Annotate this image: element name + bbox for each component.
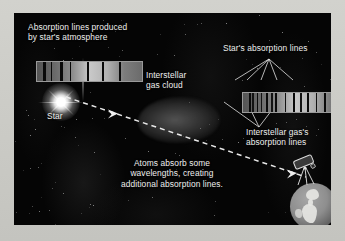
absorption-line-stellar — [87, 62, 89, 81]
stellar-spectrum — [36, 61, 143, 82]
absorption-line-interstellar — [261, 93, 262, 112]
caption-atoms-absorb: Atoms absorb some wavelengths, creating … — [86, 158, 258, 189]
absorption-line-stellar — [43, 62, 45, 81]
absorption-line-stellar — [51, 62, 53, 81]
absorption-line-stellar — [70, 62, 72, 81]
absorption-line-interstellar — [252, 93, 254, 112]
absorption-line-stellar — [257, 93, 258, 112]
caption-stellar-absorption: Absorption lines produced by star's atmo… — [28, 22, 188, 43]
absorption-line-stellar — [266, 93, 268, 112]
ray-arrowhead-1 — [108, 110, 118, 119]
absorption-line-stellar — [307, 93, 308, 112]
label-star-absorption-lines: Star's absorption lines — [223, 43, 331, 53]
spectrum-gradient — [37, 62, 142, 81]
absorption-line-stellar — [324, 93, 326, 112]
absorption-line-stellar — [249, 93, 251, 112]
absorption-line-interstellar — [285, 93, 287, 112]
absorption-line-interstellar — [316, 93, 317, 112]
absorption-line-stellar — [102, 62, 104, 81]
leader-lines-star — [235, 59, 293, 80]
absorption-line-stellar — [119, 62, 121, 81]
absorption-line-stellar — [275, 93, 277, 112]
absorption-line-interstellar — [271, 93, 273, 112]
figure-screenshot: Absorption lines produced by star's atmo… — [0, 0, 345, 241]
absorption-line-stellar — [60, 62, 63, 81]
observed-spectrum — [242, 92, 331, 113]
absorption-line-stellar — [293, 93, 295, 112]
ray-arrowhead-2 — [287, 170, 298, 179]
label-star: Star — [47, 111, 63, 121]
label-interstellar-gas-cloud: Interstellar gas cloud — [146, 70, 224, 91]
illustration-plate: Absorption lines produced by star's atmo… — [14, 13, 331, 225]
absorption-line-interstellar — [300, 93, 302, 112]
label-interstellar-absorption-lines: Interstellar gas's absorption lines — [246, 127, 331, 148]
telescope — [293, 155, 315, 185]
